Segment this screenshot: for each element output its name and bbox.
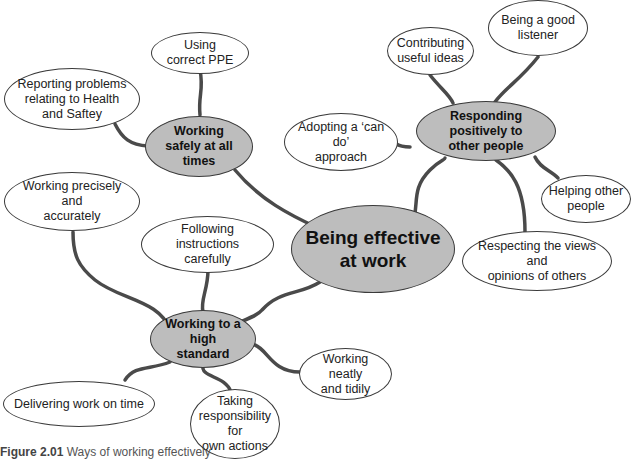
leaf-node-delivering-on-time: Delivering work on time [3,381,155,427]
leaf-node-following-instructions: Following instructions carefully [141,216,274,273]
center-node-being-effective: Being effective at work [291,205,455,293]
hub-label-line2: other people [448,139,523,154]
leaf-label-line2: responsibility for [197,409,273,439]
leaf-label-line1: Helping other [549,184,623,199]
leaf-label-line2: carefully [184,252,231,267]
figure-title: Ways of working effectively [67,445,211,459]
figure-number: Figure 2.01 [0,445,63,459]
leaf-label-line1: Delivering work on time [14,397,144,412]
leaf-label-line2: useful ideas [397,51,464,66]
hub-label-line1: Working [174,124,224,139]
leaf-label-line2: relating to Health [25,92,120,107]
hub-node-working-safely: Working safely at all times [145,116,253,177]
hub-node-high-standard: Working to a high standard [150,310,256,368]
leaf-label-line2: opinions of others [488,269,587,284]
leaf-label-line1: Working neatly [306,352,385,382]
center-label-line1: Being effective [305,226,440,249]
leaf-node-respecting-views: Respecting the views and opinions of oth… [462,231,612,291]
leaf-label-line2: approach [315,150,367,165]
center-label-line2: at work [340,249,407,272]
leaf-label-line2: people [567,199,605,214]
leaf-label-line2: and tidily [321,382,370,397]
hub-label-line1: Responding positively to [423,109,549,139]
figure-caption: Figure 2.01 Ways of working effectively [0,445,211,459]
leaf-node-good-listener: Being a good listener [488,0,588,56]
leaf-label-line1: Using [184,38,216,53]
leaf-node-working-neatly: Working neatly and tidily [299,348,392,400]
leaf-label-line1: Working precisely and [11,179,133,209]
leaf-label-line3: own actions [202,439,268,454]
leaf-node-using-ppe: Using correct PPE [151,32,249,74]
leaf-label-line1: Reporting problems [17,77,126,92]
leaf-node-can-do-approach: Adopting a ‘can do’ approach [284,113,398,171]
leaf-label-line1: Following instructions [148,222,267,252]
leaf-node-reporting-problems: Reporting problems relating to Health an… [4,68,140,130]
leaf-label-line1: Adopting a ‘can do’ [291,120,391,150]
hub-node-responding-positively: Responding positively to other people [416,101,556,161]
leaf-label-line2: listener [518,28,558,43]
leaf-label-line1: Being a good [501,13,575,28]
leaf-label-line2: correct PPE [167,53,234,68]
leaf-node-helping-others: Helping other people [541,175,631,223]
leaf-label-line1: Respecting the views and [469,239,605,269]
leaf-label-line1: Contributing [397,36,464,51]
hub-label-line2: safely at all times [152,139,246,169]
leaf-label-line3: and Saftey [42,107,102,122]
leaf-label-line2: accurately [44,209,101,224]
hub-label-line1: Working to a high [157,317,249,347]
leaf-label-line1: Taking [217,394,253,409]
hub-label-line2: standard [177,347,230,362]
leaf-node-working-precisely: Working precisely and accurately [4,172,140,231]
leaf-node-contributing-ideas: Contributing useful ideas [387,27,474,75]
